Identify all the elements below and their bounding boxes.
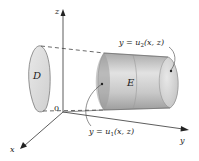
- lower-surface-point-icon: [101, 83, 103, 85]
- y-axis-arrow-icon: [181, 126, 190, 132]
- solid-e-label: E: [126, 77, 135, 88]
- diagram-canvas: z x y 0 D E: [0, 0, 199, 161]
- x-axis-label: x: [10, 145, 15, 154]
- upper-surface-point-icon: [170, 70, 172, 72]
- origin-label: 0: [54, 104, 59, 113]
- base-line: [63, 110, 104, 112]
- y-axis-label: y: [179, 136, 185, 145]
- region-d-label: D: [32, 70, 41, 81]
- lower-surface-label: y = u1(x, z): [88, 127, 134, 137]
- region-d: D: [29, 46, 51, 112]
- z-axis-arrow-icon: [61, 9, 66, 16]
- z-axis: z: [54, 7, 66, 112]
- x-axis-arrow-icon: [20, 142, 27, 149]
- upper-surface-label: y = u2(x, z): [118, 38, 164, 48]
- x-axis: x: [10, 112, 63, 154]
- solid-e: E: [96, 53, 178, 110]
- z-axis-label: z: [54, 7, 60, 16]
